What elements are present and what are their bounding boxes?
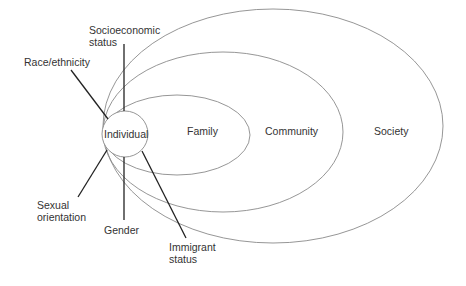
race-line bbox=[71, 70, 108, 119]
sexual-orientation-label: Sexual orientation bbox=[37, 200, 86, 223]
socioeconomic-label-line2: status bbox=[89, 37, 160, 49]
gender-label-line1: Gender bbox=[104, 225, 139, 237]
family-label: Family bbox=[187, 126, 218, 138]
sexual-orientation-line bbox=[78, 150, 107, 197]
sexual-orientation-label-line1: Sexual bbox=[37, 200, 86, 212]
socioeconomic-label: Socioeconomic status bbox=[89, 25, 160, 48]
individual-label: Individual bbox=[104, 129, 148, 141]
immigrant-label: Immigrant status bbox=[169, 242, 216, 265]
ecological-model-diagram bbox=[0, 0, 466, 286]
race-label-line1: Race/ethnicity bbox=[24, 57, 90, 69]
race-label: Race/ethnicity bbox=[24, 57, 90, 69]
immigrant-label-line1: Immigrant bbox=[169, 242, 216, 254]
community-label: Community bbox=[265, 126, 318, 138]
immigrant-label-line2: status bbox=[169, 254, 216, 266]
gender-label: Gender bbox=[104, 225, 139, 237]
socioeconomic-label-line1: Socioeconomic bbox=[89, 25, 160, 37]
society-label: Society bbox=[374, 126, 408, 138]
sexual-orientation-label-line2: orientation bbox=[37, 212, 86, 224]
